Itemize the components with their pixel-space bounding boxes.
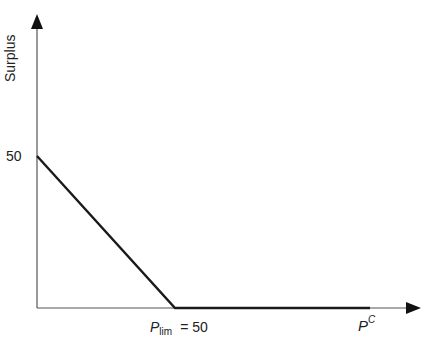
c-superscript: C (368, 314, 375, 325)
y-tick-50: 50 (6, 148, 22, 164)
x-tick-p-lim: Plim= 50 (150, 319, 208, 335)
p-symbol: P (150, 319, 159, 335)
y-axis-arrow-icon (31, 14, 43, 29)
x-axis-arrow-icon (406, 302, 421, 314)
chart-canvas (0, 0, 433, 348)
y-axis-label: Surplus (2, 35, 18, 82)
surplus-line (37, 156, 370, 308)
lim-subscript: lim (159, 326, 172, 337)
x-tick-value: = 50 (180, 319, 208, 335)
x-axis-label: PC (358, 316, 375, 334)
p-symbol: P (358, 317, 368, 334)
